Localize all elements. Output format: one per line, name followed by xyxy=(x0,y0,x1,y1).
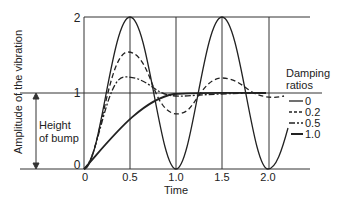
y-tick-0: 0 xyxy=(74,158,81,172)
annotation-line1: Height xyxy=(39,119,71,131)
series-damping-1.0 xyxy=(84,93,266,169)
y-tick-2: 2 xyxy=(74,11,81,25)
legend-title-line1: Damping xyxy=(286,67,330,79)
plot-frame xyxy=(20,17,322,169)
x-tick-1.5: 1.5 xyxy=(214,171,229,183)
x-axis-label: Time xyxy=(164,184,188,196)
x-tick-0.5: 0.5 xyxy=(122,171,137,183)
annotation-line2: of bump xyxy=(39,132,79,144)
y-tick-1: 1 xyxy=(74,86,81,100)
legend-title-line2: ratios xyxy=(286,79,313,91)
x-tick-1.0: 1.0 xyxy=(168,171,183,183)
series-damping-0.2 xyxy=(84,52,284,169)
y-axis-label: Amplitude of the vibration xyxy=(12,30,24,154)
x-tick-2.0: 2.0 xyxy=(260,171,275,183)
x-tick-0: 0 xyxy=(82,171,88,183)
vibration-chart: Height of bump Amplitude of the vibratio… xyxy=(0,0,351,203)
series-damping-0.5 xyxy=(84,77,266,169)
legend-label-1.0: 1.0 xyxy=(305,128,320,140)
legend: Damping ratios 0 0.2 0.5 1.0 xyxy=(286,67,330,140)
height-of-bump-arrow xyxy=(33,93,39,169)
